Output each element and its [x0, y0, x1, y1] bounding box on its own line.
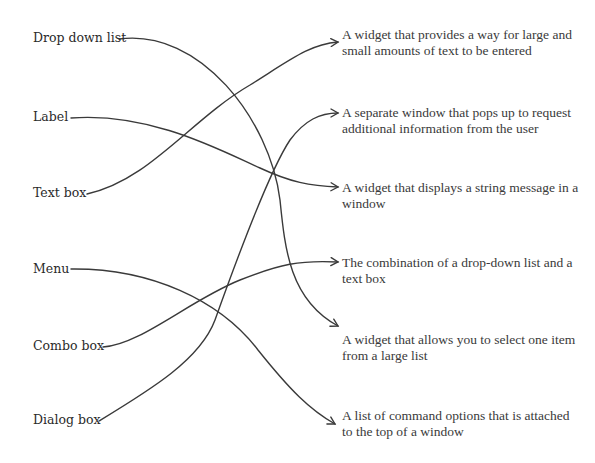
connector-text-box — [87, 42, 338, 194]
definition-string-message[interactable]: A widget that displays a string message … — [342, 180, 582, 212]
connector-dialog-box — [99, 113, 338, 421]
connector-label — [71, 117, 338, 187]
term-drop-down-list[interactable]: Drop down list — [33, 32, 126, 45]
term-label[interactable]: Label — [33, 111, 68, 124]
term-text-box[interactable]: Text box — [33, 187, 86, 200]
definition-text-entry[interactable]: A widget that provides a way for large a… — [342, 27, 582, 59]
term-menu[interactable]: Menu — [33, 263, 69, 276]
connector-lines — [0, 0, 595, 463]
term-dialog-box[interactable]: Dialog box — [33, 414, 101, 427]
definition-command-options[interactable]: A list of command options that is attach… — [342, 408, 582, 440]
definition-select-one-item[interactable]: A widget that allows you to select one i… — [342, 332, 582, 364]
definition-popup-window[interactable]: A separate window that pops up to reques… — [342, 105, 582, 137]
term-combo-box[interactable]: Combo box — [33, 340, 104, 353]
definition-combination[interactable]: The combination of a drop-down list and … — [342, 255, 582, 287]
